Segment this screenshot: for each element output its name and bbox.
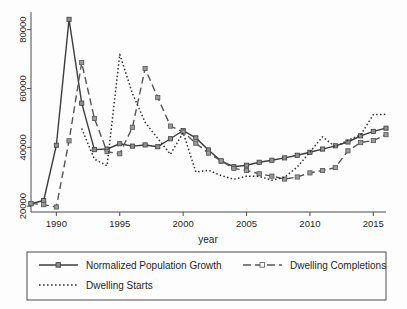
data-point-marker (232, 166, 236, 170)
data-point-marker (80, 60, 84, 64)
x-axis-ticks: 199019952000200520102015 (46, 212, 384, 229)
data-point-marker (282, 156, 286, 160)
data-point-marker (118, 142, 122, 146)
data-point-marker (194, 141, 198, 145)
data-point-marker (371, 138, 375, 142)
legend-swatch-marker-square (56, 263, 61, 268)
data-point-marker (29, 201, 33, 205)
y-tick-label: 80000 (17, 16, 28, 42)
data-point-marker (118, 152, 122, 156)
legend-swatch-marker-square-open (260, 263, 265, 268)
data-point-marker (92, 148, 96, 152)
data-point-marker (206, 151, 210, 155)
data-point-marker (270, 174, 274, 178)
data-point-marker (54, 143, 58, 147)
legend-label-dwelling-completions: Dwelling Completions (290, 260, 386, 271)
series-path-dwelling-completions (31, 63, 386, 207)
data-point-marker (270, 158, 274, 162)
data-point-marker (295, 153, 299, 157)
data-point-marker (244, 168, 248, 172)
x-tick-label: 1990 (46, 218, 67, 229)
figure-container: 20000400006000080000 1990199520002005201… (0, 0, 407, 309)
data-point-marker (333, 165, 337, 169)
x-tick-label: 2005 (236, 218, 257, 229)
x-tick-label: 2010 (299, 218, 320, 229)
data-point-marker (42, 203, 46, 207)
data-point-marker (168, 124, 172, 128)
data-point-marker (67, 139, 71, 143)
data-point-marker (92, 116, 96, 120)
data-point-marker (384, 126, 388, 130)
x-tick-label: 1995 (109, 218, 130, 229)
series-path-normalized-population-growth (31, 19, 386, 203)
data-point-marker (295, 175, 299, 179)
legend-label-dwelling-starts: Dwelling Starts (86, 280, 153, 291)
y-tick-label: 20000 (17, 193, 28, 219)
data-point-marker (219, 159, 223, 163)
data-point-marker (67, 17, 71, 21)
legend-label-normalized-population-growth: Normalized Population Growth (86, 260, 222, 271)
data-point-marker (257, 160, 261, 164)
data-point-marker (168, 137, 172, 141)
data-point-marker (130, 125, 134, 129)
data-point-marker (346, 149, 350, 153)
data-point-marker (54, 205, 58, 209)
legend-item-dwelling-completions: Dwelling Completions (243, 260, 386, 271)
data-point-marker (308, 150, 312, 154)
data-point-marker (143, 66, 147, 70)
line-chart: 20000400006000080000 1990199520002005201… (0, 0, 407, 309)
data-point-marker (384, 133, 388, 137)
data-point-marker (130, 144, 134, 148)
y-tick-label: 40000 (17, 134, 28, 160)
y-tick-label: 60000 (17, 75, 28, 101)
data-point-marker (244, 163, 248, 167)
data-point-marker (156, 145, 160, 149)
x-tick-label: 2000 (173, 218, 194, 229)
data-point-marker (308, 171, 312, 175)
data-point-marker (194, 136, 198, 140)
data-point-marker (80, 101, 84, 105)
data-point-marker (156, 95, 160, 99)
series-group (29, 17, 388, 209)
data-point-marker (321, 168, 325, 172)
data-point-marker (42, 198, 46, 202)
x-tick-label: 2015 (363, 218, 384, 229)
data-point-marker (321, 147, 325, 151)
data-point-marker (143, 143, 147, 147)
legend-item-normalized-population-growth: Normalized Population Growth (39, 260, 222, 271)
data-point-marker (371, 129, 375, 133)
data-point-marker (257, 172, 261, 176)
data-point-marker (359, 140, 363, 144)
chart-legend: Normalized Population Growth Dwelling Co… (27, 252, 386, 300)
y-axis-ticks: 20000400006000080000 (17, 16, 31, 219)
legend-item-dwelling-starts: Dwelling Starts (39, 280, 153, 291)
x-axis-title: year (198, 234, 218, 245)
